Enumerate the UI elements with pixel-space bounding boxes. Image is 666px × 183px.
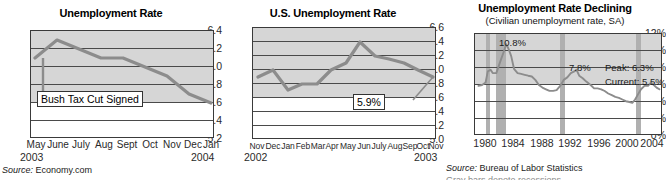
chart-3-title: Unemployment Rate Declining <box>444 2 666 14</box>
chart-1-xtick: Jan <box>203 140 219 150</box>
chart-3-source-text: Bureau of Labor Statistics <box>480 163 583 173</box>
chart-1-xtick: June <box>47 140 69 150</box>
chart-2-canvas: 5.9% <box>252 27 436 139</box>
chart-2-callout-5-9-percent: 5.9% <box>353 94 385 110</box>
chart-3-xtick: 1980 <box>473 138 496 148</box>
chart-1-xtick: Aug <box>95 140 113 150</box>
chart-1-source-text: Economy.com <box>36 165 92 175</box>
chart-2-xtick: Apr <box>325 141 338 151</box>
chart-1-xtick: May <box>27 140 46 150</box>
chart-2-title: U.S. Unemployment Rate <box>222 7 444 19</box>
chart-1-annotation-bush-tax-cut: Bush Tax Cut Signed <box>37 91 143 107</box>
chart-1-xtick: Oct <box>142 140 158 150</box>
chart-2-year-start: 2002 <box>244 152 267 163</box>
chart-1-series-line <box>31 31 214 138</box>
chart-2-xtick: May <box>340 141 356 151</box>
chart-1-source-prefix: Source: <box>2 165 33 175</box>
chart-1-xtick: Sept <box>117 140 138 150</box>
three-chart-figure: Unemployment Rate 6.4 6.2 6.0 5.8 5.6 5.… <box>0 0 666 183</box>
chart-panel-unemployment-rate-declining: Unemployment Rate Declining (Civilian un… <box>444 0 666 183</box>
chart-2-xtick: Jan <box>281 141 295 151</box>
chart-3-source: Source: Bureau of Labor Statistics <box>446 163 583 173</box>
chart-2-xtick: Feb <box>296 141 311 151</box>
chart-1-year-start: 2003 <box>20 152 43 163</box>
chart-3-xtick: 1992 <box>558 138 581 148</box>
chart-3-xtick: 2004 <box>640 138 663 148</box>
chart-2-xtick: Sep <box>402 141 417 151</box>
chart-3-xtick: 2000 <box>615 138 638 148</box>
chart-2-xtick: Mar <box>311 141 326 151</box>
chart-3-canvas: 10.8% 7.8% Peak: 6.3% Current: 5.5% <box>474 33 662 135</box>
chart-3-xtick: 1988 <box>530 138 553 148</box>
chart-3-annotation-peak-10-8: 10.8% <box>499 37 526 48</box>
chart-3-annotation-current-value: Current: 5.5% <box>605 76 662 87</box>
chart-3-x-axis: 1980 1984 1988 1992 1996 2000 2004 <box>444 138 666 150</box>
chart-2-xtick: Nov <box>249 141 264 151</box>
chart-2-xtick: Dec <box>265 141 280 151</box>
chart-1-xtick: Nov <box>163 140 181 150</box>
chart-1-source: Source: Economy.com <box>2 165 92 175</box>
chart-1-title: Unemployment Rate <box>0 7 222 19</box>
chart-3-xtick: 1996 <box>587 138 610 148</box>
chart-panel-unemployment-rate: Unemployment Rate 6.4 6.2 6.0 5.8 5.6 5.… <box>0 0 222 183</box>
chart-3-xtick: 1984 <box>501 138 524 148</box>
chart-panel-us-unemployment-rate: U.S. Unemployment Rate 6.6 6.4 6.2 6.0 5… <box>222 0 444 183</box>
chart-2-xtick: Nov <box>428 141 443 151</box>
chart-1-canvas: Bush Tax Cut Signed <box>30 30 214 138</box>
chart-2-series-line <box>253 28 436 139</box>
chart-3-annotation-peak-7-8: 7.8% <box>569 62 591 73</box>
chart-1-year-end: 2004 <box>191 152 214 163</box>
chart-3-subtitle: (Civilian unemployment rate, SA) <box>444 15 666 26</box>
chart-2-xtick: Jun <box>357 141 371 151</box>
chart-2-xtick: Aug <box>387 141 402 151</box>
chart-3-recession-note: Gray bars denote recessions <box>446 175 561 180</box>
chart-3-source-prefix: Source: <box>446 163 477 173</box>
chart-2-year-end: 2003 <box>414 152 437 163</box>
chart-1-xtick: Dec <box>184 140 202 150</box>
chart-3-annotation-peak-value: Peak: 6.3% <box>605 62 654 73</box>
chart-2-xtick: July <box>371 141 386 151</box>
chart-1-xtick: July <box>72 140 90 150</box>
